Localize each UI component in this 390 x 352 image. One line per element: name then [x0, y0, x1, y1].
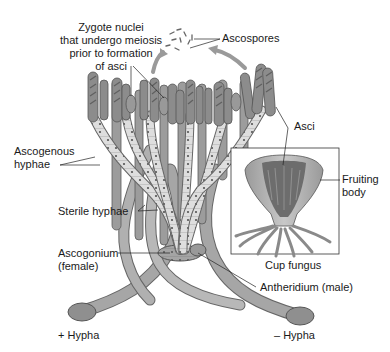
label-fruiting-line-1: Fruiting [342, 173, 379, 186]
label-ascogonium-line-2: (female) [58, 260, 119, 273]
arrow-head-right [208, 45, 218, 55]
label-antheridium: Antheridium (male) [260, 281, 353, 294]
label-fruiting-line-2: body [342, 186, 379, 199]
label-ascogonium: Ascogonium (female) [58, 247, 119, 273]
label-zygote-line-1: Zygote nuclei [60, 21, 162, 34]
label-ascogonium-line-1: Ascogonium [58, 247, 119, 260]
label-asci: Asci [294, 120, 315, 133]
label-zygote-line-3: prior to formation [60, 47, 162, 60]
label-ascospores: Ascospores [222, 32, 279, 45]
label-ascogenous-line-1: Ascogenous [14, 145, 75, 158]
label-sterile-hyphae: Sterile hyphae [58, 205, 128, 218]
label-zygote-nuclei: Zygote nuclei that undergo meiosis prior… [60, 21, 162, 73]
minus-hypha-tip [286, 307, 314, 325]
label-plus-hypha: + Hypha [58, 329, 99, 342]
label-ascogenous-line-2: hyphae [14, 158, 75, 171]
label-zygote-line-4: of asci [60, 60, 162, 73]
plus-hypha-tip [68, 303, 96, 321]
label-fruiting-body: Fruiting body [342, 173, 379, 199]
label-zygote-line-2: that undergo meiosis [60, 34, 162, 47]
label-minus-hypha: – Hypha [274, 329, 315, 342]
diagram-illustration [0, 0, 390, 352]
ascospores-cluster [166, 29, 192, 50]
label-ascogenous-hyphae: Ascogenous hyphae [14, 145, 75, 171]
label-cup-fungus: Cup fungus [265, 259, 321, 272]
ascomycete-diagram: Zygote nuclei that undergo meiosis prior… [0, 0, 390, 352]
antheridium-shape [190, 244, 206, 256]
